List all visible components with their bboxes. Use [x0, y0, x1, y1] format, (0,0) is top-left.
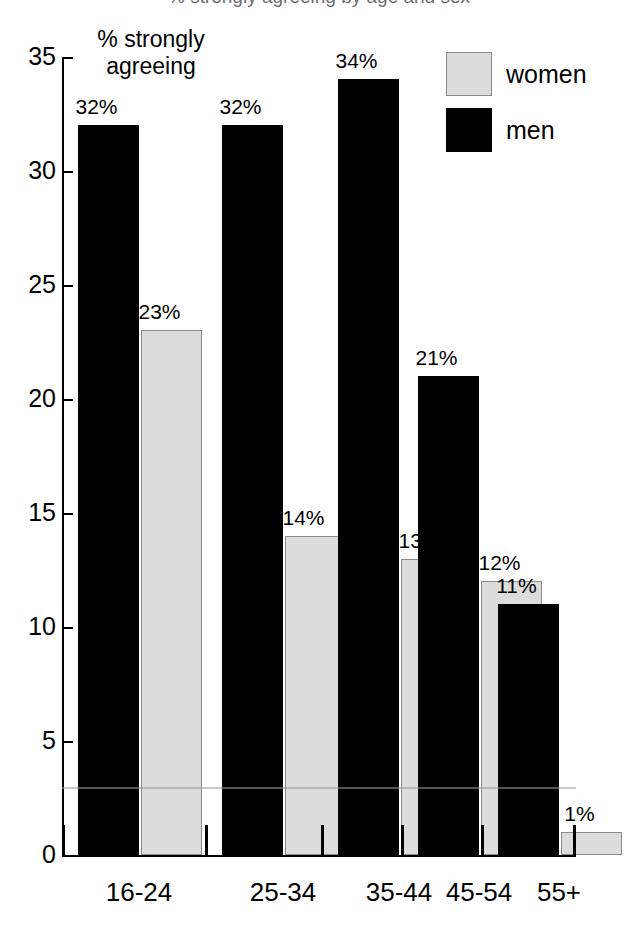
- bar-label-men-45-54: 21%: [406, 347, 467, 368]
- y-axis-label-15: 15: [8, 500, 56, 525]
- legend-swatch-men-icon: [446, 108, 492, 152]
- x-axis-label-25-34: 25-34: [222, 878, 344, 906]
- legend-swatch-women-icon: [446, 52, 492, 96]
- x-axis-tick-4: [481, 825, 484, 856]
- bar-men-25-34: [222, 125, 283, 855]
- bar-women-25-34: [285, 536, 346, 855]
- scan-artifact-line: [62, 787, 576, 789]
- x-axis-tick-3: [401, 825, 404, 856]
- bar-men-35-44: [338, 79, 399, 855]
- bar-label-men-25-34: 32%: [210, 96, 271, 117]
- bar-men-45-54: [418, 376, 479, 855]
- plot-area: [62, 57, 576, 855]
- y-axis-label-30: 30: [8, 158, 56, 183]
- legend-item-women: women: [446, 52, 626, 108]
- bar-women-16-24: [141, 330, 202, 855]
- y-axis-label-35: 35: [8, 44, 56, 69]
- y-axis-label-0: 0: [8, 842, 56, 867]
- bar-women-55plus: [561, 832, 622, 855]
- legend-label-men: men: [506, 116, 555, 144]
- x-axis-tick-2: [321, 825, 324, 856]
- legend-item-men: men: [446, 108, 626, 164]
- y-axis-caption-line1: % strongly: [66, 26, 236, 53]
- y-axis-labels: 35 30 25 20 15 10 5 0: [0, 0, 56, 933]
- bar-label-men-35-44: 34%: [326, 50, 387, 71]
- bar-label-women-25-34: 14%: [273, 507, 334, 528]
- chart-figure: % strongly agreeing by age and sex 35 30…: [0, 0, 638, 933]
- x-axis-label-16-24: 16-24: [78, 878, 200, 906]
- x-axis-tick-0: [62, 825, 65, 856]
- chart-title-text: % strongly agreeing by age and sex: [168, 0, 470, 7]
- bar-label-women-35-44: 13%: [389, 530, 450, 551]
- bar-label-men-16-24: 32%: [66, 96, 127, 117]
- bar-label-women-16-24: 23%: [129, 301, 190, 322]
- bar-label-women-45-54: 12%: [469, 552, 530, 573]
- x-axis-tick-1: [205, 825, 208, 856]
- chart-title-cropped: % strongly agreeing by age and sex: [0, 0, 638, 7]
- y-axis-label-5: 5: [8, 728, 56, 753]
- x-axis-label-55plus: 55+: [498, 878, 620, 906]
- y-axis-label-25: 25: [8, 272, 56, 297]
- chart-legend: women men: [446, 52, 626, 164]
- y-axis-label-20: 20: [8, 386, 56, 411]
- bar-label-women-55plus: 1%: [549, 803, 610, 824]
- x-axis-tick-5: [573, 825, 576, 856]
- bar-men-16-24: [78, 125, 139, 855]
- x-axis-line: [62, 855, 576, 857]
- bar-label-men-55plus: 11%: [486, 575, 547, 596]
- y-axis-label-10: 10: [8, 614, 56, 639]
- legend-label-women: women: [506, 60, 587, 88]
